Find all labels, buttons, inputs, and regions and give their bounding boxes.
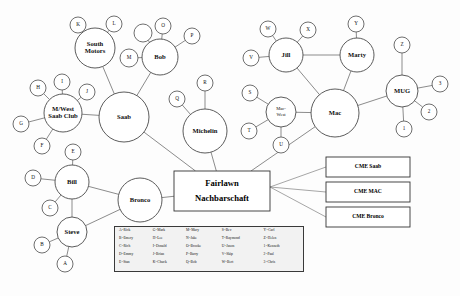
node-D[interactable]: D: [25, 170, 41, 186]
center-box[interactable]: FairlawnNachbarschaft: [174, 171, 270, 211]
node-label-G: G: [19, 120, 23, 126]
node-Y[interactable]: Y: [348, 16, 364, 32]
node-mac[interactable]: Mac: [311, 89, 359, 137]
legend-cell: 3=Chris: [263, 261, 300, 269]
node-label-Z: Z: [400, 41, 403, 47]
edge-mwest_saab_club-J: [77, 97, 81, 100]
node-label-bill: Bill: [67, 178, 77, 185]
node-south_motors[interactable]: SouthMotors: [75, 28, 115, 68]
node-mwest_saab_club[interactable]: M/WestSaab Club: [44, 94, 82, 132]
node-label-J: J: [86, 88, 88, 94]
node-label-michelin: Michelin: [193, 127, 218, 134]
cme_bronco-label: CME Bronco: [352, 213, 384, 219]
node-2[interactable]: 2: [421, 104, 437, 120]
node-J[interactable]: J: [79, 84, 95, 100]
edge-jill-W: [273, 36, 277, 41]
node-label-2: 2: [428, 108, 431, 114]
edge-steve-A: [67, 247, 69, 257]
cme_saab-box[interactable]: CME Saab: [326, 157, 410, 177]
node-Z[interactable]: Z: [394, 37, 410, 53]
node-label-bronco: Bronco: [130, 196, 151, 203]
node-label-A: A: [63, 260, 67, 266]
node-H[interactable]: H: [30, 80, 46, 96]
node-jill[interactable]: Jill: [269, 38, 303, 72]
node-bill[interactable]: Bill: [55, 165, 89, 199]
diagram-canvas: KLOPMRQHIJGFEDCBAWXVYZSTU321SouthMotorsB…: [0, 0, 460, 296]
edge-mwest_saab_club-G: [29, 118, 45, 122]
node-label-Q: Q: [175, 95, 179, 101]
node-mac_west[interactable]: Mac-West: [266, 97, 296, 127]
node-steve[interactable]: Steve: [57, 217, 87, 247]
node-bronco[interactable]: Bronco: [118, 178, 162, 222]
node-bob[interactable]: Bob: [142, 39, 178, 75]
node-R[interactable]: R: [197, 75, 213, 91]
node-label-1: 1: [403, 125, 406, 131]
node-E[interactable]: E: [65, 144, 81, 160]
node-mug[interactable]: MUG: [386, 75, 418, 107]
node-B[interactable]: B: [34, 237, 50, 253]
node-label-V: V: [249, 54, 253, 60]
edge-steve-B: [49, 238, 58, 242]
node-marty[interactable]: Marty: [340, 38, 374, 72]
node-label-mac_west-line2: West: [276, 112, 286, 117]
edge-mwest_saab_club-F: [46, 129, 53, 139]
edge-bill-D: [41, 179, 55, 180]
node-label-I: I: [61, 78, 63, 84]
node-3[interactable]: 3: [432, 76, 448, 92]
edge-mug-1: [403, 107, 404, 121]
node-V[interactable]: V: [243, 50, 259, 66]
edge-mug-3: [418, 85, 432, 88]
cme_bronco-box[interactable]: CME Bronco: [326, 207, 410, 227]
node-Q[interactable]: Q: [169, 91, 185, 107]
edge-jill-X: [297, 36, 302, 42]
node-S[interactable]: S: [242, 85, 258, 101]
edge-steve-bronco: [86, 209, 121, 225]
node-label-W: W: [266, 25, 271, 31]
node-label-B: B: [40, 241, 44, 247]
edge-center-cme_saab: [270, 167, 326, 187]
node-O[interactable]: O: [155, 18, 171, 34]
node-saab[interactable]: Saab: [99, 92, 149, 142]
node-label-bob: Bob: [154, 53, 166, 60]
node-1[interactable]: 1: [396, 121, 412, 137]
node-U[interactable]: U: [273, 137, 289, 153]
node-label-O: O: [161, 22, 165, 28]
legend-cell: W=Bert: [221, 261, 263, 269]
center-box-layer: FairlawnNachbarschaft: [174, 171, 270, 211]
edge-bob-saab: [137, 72, 151, 95]
legend-row: E=StanK=ChuckQ=BobW=Bert3=Chris: [118, 261, 300, 269]
cme-edges-layer: [270, 167, 326, 217]
node-M[interactable]: M: [120, 49, 138, 67]
node-label-E: E: [71, 148, 74, 154]
cme_mac-label: CME MAC: [354, 188, 382, 194]
node-L[interactable]: L: [106, 16, 122, 32]
node-label-mwest_saab_club-line1: M/West: [52, 105, 75, 112]
node-label-M: M: [127, 54, 132, 60]
center-box-line1: Fairlawn: [205, 178, 239, 188]
edge-mac_west-T: [256, 120, 268, 127]
cme_mac-box[interactable]: CME MAC: [326, 182, 410, 202]
node-G[interactable]: G: [13, 116, 29, 132]
node-label-3: 3: [439, 80, 442, 86]
node-K[interactable]: K: [70, 17, 86, 33]
node-label-U: U: [279, 141, 283, 147]
edge-south_motors-saab: [103, 66, 115, 94]
node-label-Y: Y: [354, 20, 358, 26]
edge-bill-bronco: [88, 186, 118, 194]
node-T[interactable]: T: [241, 123, 257, 139]
node-W[interactable]: W: [260, 21, 276, 37]
node-P[interactable]: P: [184, 28, 200, 44]
node-X[interactable]: X: [300, 22, 316, 38]
node-label-south_motors-line1: South: [87, 40, 104, 47]
node-label-K: K: [76, 21, 80, 27]
node-A[interactable]: A: [57, 256, 73, 272]
cme-boxes-layer: CME SaabCME MACCME Bronco: [326, 157, 410, 227]
node-F[interactable]: F: [34, 138, 50, 154]
node-I[interactable]: I: [54, 74, 70, 90]
legend-cell: K=Chuck: [152, 261, 185, 269]
node-michelin[interactable]: Michelin: [183, 109, 227, 153]
edge-mac_west-S: [257, 97, 268, 104]
node-label-mac_west-line1: Mac-: [276, 106, 286, 111]
node-N[interactable]: [134, 24, 152, 42]
node-C[interactable]: C: [42, 200, 58, 216]
